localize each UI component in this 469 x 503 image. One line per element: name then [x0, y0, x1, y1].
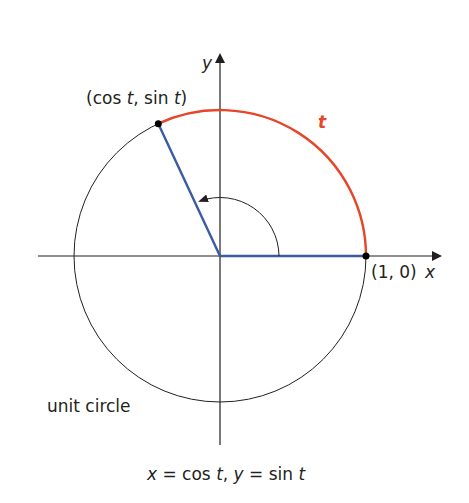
point-label-mid: , sin [133, 88, 174, 108]
eq-x: x [147, 464, 157, 484]
eq-2: = sin [244, 464, 299, 484]
eq-comma: , [223, 464, 234, 484]
unit-circle-label: unit circle [47, 398, 131, 415]
arc-t [158, 110, 366, 256]
eq-t2: t [298, 464, 305, 484]
eq-1: = cos [157, 464, 216, 484]
angle-arrow [200, 198, 279, 256]
point-label-t2: t [174, 88, 181, 108]
point-1-0 [363, 253, 370, 260]
unit-circle-diagram [0, 0, 469, 503]
eq-y: y [234, 464, 244, 484]
point-label-open: (cos [86, 88, 127, 108]
point-cos-sin [155, 120, 162, 127]
arc-label: t [318, 114, 326, 131]
y-axis-label: y [202, 55, 212, 72]
one-zero-label: (1, 0) [371, 264, 417, 281]
point-label: (cos t, sin t) [86, 90, 187, 107]
radius-to-point [158, 124, 220, 256]
eq-t1: t [216, 464, 223, 484]
x-axis-label: x [425, 264, 435, 281]
equation: x = cos t, y = sin t [147, 466, 305, 483]
point-label-close: ) [181, 88, 188, 108]
